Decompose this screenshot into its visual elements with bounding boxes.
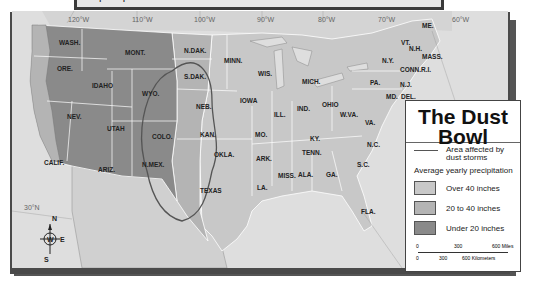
swatch-20-40 [414, 201, 436, 215]
legend-item-20-40: 20 to 40 inches [414, 201, 500, 215]
state-label: FLA. [361, 208, 375, 215]
state-label: NEV. [67, 113, 82, 120]
state-label: MD. [386, 93, 398, 100]
state-label: CONN. [400, 66, 421, 73]
state-label: OKLA. [214, 151, 234, 158]
legend-item-label: 20 to 40 inches [446, 204, 500, 213]
longitude-label: 110°W [132, 16, 153, 23]
legend-item-label: Over 40 inches [446, 184, 500, 193]
compass-w: W [47, 236, 54, 243]
question-text: precipitation was a cause of the Dust Bo… [99, 0, 312, 2]
state-label: MO. [255, 131, 267, 138]
state-label: OHIO [322, 101, 339, 108]
state-label: KY. [310, 135, 320, 142]
legend-title-line2: Bowl [406, 127, 520, 147]
state-label: MINN. [224, 57, 242, 64]
compass-n: N [52, 215, 57, 222]
precip-heading: Average yearly precipitation [414, 166, 513, 175]
swatch-under-20 [414, 221, 436, 235]
longitude-label: 120°W [68, 16, 89, 23]
longitude-label: 70°W [378, 16, 395, 23]
legend-item-label: Under 20 inches [446, 224, 504, 233]
state-label: R.I. [421, 66, 431, 73]
state-label: MASS. [422, 53, 443, 60]
state-label: LA. [257, 184, 267, 191]
state-label: N.J. [400, 81, 412, 88]
compass-s: S [44, 256, 49, 263]
state-label: S.C. [357, 161, 370, 168]
state-label: UTAH [107, 125, 125, 132]
scale-mile-300: 300 [454, 243, 462, 249]
state-label: WIS. [258, 70, 272, 77]
state-label: S.DAK. [184, 73, 206, 80]
state-label: IDAHO [92, 82, 113, 89]
legend: The Dust Bowl Area affected by dust stor… [405, 100, 521, 272]
state-label: W.VA. [340, 111, 358, 118]
state-label: N.Y. [382, 57, 394, 64]
state-label: MONT. [125, 49, 145, 56]
longitude-label: 60°W [452, 16, 469, 23]
state-label: VA. [365, 119, 375, 126]
state-label: PA. [370, 79, 380, 86]
scale-km-300: 300 [439, 255, 447, 261]
legend-title-line1: The Dust [406, 107, 520, 127]
state-label: TENN. [302, 149, 322, 156]
state-label: N.MEX. [142, 161, 164, 168]
dust-area-label: Area affected by dust storms [446, 146, 516, 162]
state-label: N.H. [409, 45, 422, 52]
legend-item-under-20: Under 20 inches [414, 221, 504, 235]
state-label: ORE. [57, 65, 73, 72]
longitude-label: 80°W [318, 16, 335, 23]
longitude-label: 100°W [194, 16, 215, 23]
state-label: N.DAK. [184, 47, 206, 54]
state-label: KAN. [200, 131, 216, 138]
state-label: GA. [326, 171, 338, 178]
state-label: TEXAS [200, 187, 222, 194]
state-label: IND. [297, 105, 310, 112]
state-label: MISS. [278, 172, 296, 179]
state-label: ILL. [274, 111, 286, 118]
state-label: NEB. [196, 103, 212, 110]
state-label: ALA. [298, 171, 313, 178]
state-label: DEL. [401, 93, 416, 100]
scale-mile-0: 0 [416, 243, 419, 249]
legend-item-over-40: Over 40 inches [414, 181, 500, 195]
state-label: MICH. [302, 78, 320, 85]
scale-bar: 0 300 600 Miles 0 300 600 Kilometers [414, 243, 514, 265]
scale-km-600: 600 Kilometers [462, 255, 495, 261]
longitude-label: 90°W [257, 16, 274, 23]
latitude-label: 30°N [24, 204, 40, 211]
state-label: IOWA [240, 97, 257, 104]
legend-title: The Dust Bowl [406, 101, 520, 143]
question-box: precipitation was a cause of the Dust Bo… [74, 0, 444, 10]
state-label: ARK. [256, 155, 272, 162]
state-label: WYO. [142, 90, 159, 97]
scale-km-0: 0 [416, 255, 419, 261]
dust-area-line-icon [414, 150, 438, 151]
state-label: CALIF. [44, 159, 64, 166]
state-label: COLO. [152, 133, 173, 140]
state-label: ME. [422, 22, 434, 29]
compass-e: E [60, 236, 65, 243]
swatch-over-40 [414, 181, 436, 195]
scale-mile-600: 600 Miles [492, 243, 513, 249]
state-label: N.C. [367, 141, 380, 148]
state-label: ARIZ. [98, 166, 115, 173]
state-label: WASH. [59, 39, 80, 46]
